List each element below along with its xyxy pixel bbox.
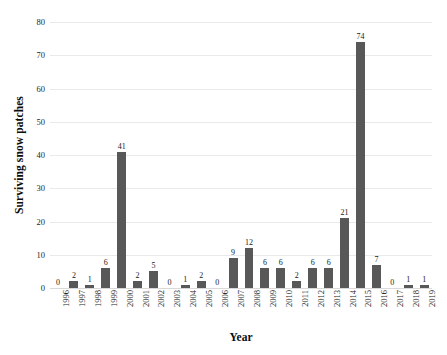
bar-value-label: 1 — [88, 275, 92, 284]
bar-value-label: 2 — [72, 271, 76, 280]
y-axis-tick-label: 0 — [41, 283, 45, 293]
bar-slot[interactable]: 1 — [82, 22, 98, 288]
bar[interactable] — [229, 258, 238, 288]
bar-slot[interactable]: 1 — [416, 22, 432, 288]
y-axis-tick-label: 50 — [37, 117, 46, 127]
bar-slot[interactable]: 1 — [177, 22, 193, 288]
y-axis-tick-label: 10 — [37, 250, 46, 260]
bar-value-label: 74 — [356, 32, 364, 41]
bar-slot[interactable]: 6 — [98, 22, 114, 288]
bar[interactable] — [133, 281, 142, 288]
bar-value-label: 6 — [263, 258, 267, 267]
x-tick-slot: 2015 — [353, 290, 369, 328]
x-tick-slot: 2002 — [146, 290, 162, 328]
bar-slot[interactable]: 2 — [130, 22, 146, 288]
bar-value-label: 6 — [311, 258, 315, 267]
bar-slot[interactable]: 0 — [50, 22, 66, 288]
x-tick-slot: 1997 — [66, 290, 82, 328]
bar[interactable] — [356, 42, 365, 288]
bar[interactable] — [69, 281, 78, 288]
x-tick-slot: 2006 — [209, 290, 225, 328]
bar-slot[interactable]: 2 — [66, 22, 82, 288]
bar[interactable] — [308, 268, 317, 288]
bar[interactable] — [324, 268, 333, 288]
x-tick-slot: 2011 — [289, 290, 305, 328]
x-tick-slot: 2013 — [321, 290, 337, 328]
y-axis-tick-label: 70 — [37, 50, 46, 60]
bar[interactable] — [197, 281, 206, 288]
bar[interactable] — [149, 271, 158, 288]
x-axis-tick-labels: 1996199719981999200020012002200320042005… — [50, 290, 432, 328]
bar-slot[interactable]: 6 — [305, 22, 321, 288]
x-tick-slot: 2004 — [177, 290, 193, 328]
bar-value-label: 12 — [245, 238, 253, 247]
bar-slot[interactable]: 9 — [225, 22, 241, 288]
bar-slot[interactable]: 0 — [161, 22, 177, 288]
x-tick-slot: 2010 — [273, 290, 289, 328]
bar-value-label: 0 — [167, 278, 171, 287]
bar-slot[interactable]: 2 — [289, 22, 305, 288]
x-tick-slot: 1996 — [50, 290, 66, 328]
bar[interactable] — [404, 285, 413, 288]
bar-slot[interactable]: 5 — [146, 22, 162, 288]
gridline: 0 — [50, 288, 432, 289]
x-tick-slot: 1999 — [98, 290, 114, 328]
x-tick-slot: 2014 — [337, 290, 353, 328]
x-tick-slot: 2019 — [416, 290, 432, 328]
bar[interactable] — [292, 281, 301, 288]
bar-value-label: 6 — [104, 258, 108, 267]
bar[interactable] — [181, 285, 190, 288]
bar-value-label: 1 — [183, 275, 187, 284]
plot-area: 80706050403020100 0216412501209126626621… — [50, 22, 432, 288]
bar-value-label: 41 — [118, 142, 126, 151]
x-tick-slot: 2000 — [114, 290, 130, 328]
bar-value-label: 7 — [374, 255, 378, 264]
bar-slot[interactable]: 21 — [337, 22, 353, 288]
x-tick-slot: 2018 — [400, 290, 416, 328]
y-axis-tick-label: 40 — [37, 150, 46, 160]
bar-slot[interactable]: 1 — [400, 22, 416, 288]
bar-slot[interactable]: 6 — [257, 22, 273, 288]
bar[interactable] — [420, 285, 429, 288]
x-axis-tick-label: 2019 — [428, 290, 437, 307]
bar-slot[interactable]: 74 — [353, 22, 369, 288]
x-tick-slot: 1998 — [82, 290, 98, 328]
x-tick-slot: 2003 — [161, 290, 177, 328]
bar-value-label: 0 — [390, 278, 394, 287]
bar-slot[interactable]: 12 — [241, 22, 257, 288]
bar-slot[interactable]: 41 — [114, 22, 130, 288]
bar-value-label: 6 — [327, 258, 331, 267]
bar-slot[interactable]: 6 — [321, 22, 337, 288]
y-axis-tick-label: 30 — [37, 183, 46, 193]
bar[interactable] — [85, 285, 94, 288]
bar-slot[interactable]: 6 — [273, 22, 289, 288]
bar[interactable] — [260, 268, 269, 288]
y-axis-tick-label: 20 — [37, 217, 46, 227]
bar[interactable] — [340, 218, 349, 288]
bar[interactable] — [276, 268, 285, 288]
bar-value-label: 9 — [231, 248, 235, 257]
bar-value-label: 2 — [136, 271, 140, 280]
bar[interactable] — [101, 268, 110, 288]
x-tick-slot: 2008 — [241, 290, 257, 328]
x-tick-slot: 2012 — [305, 290, 321, 328]
bar[interactable] — [372, 265, 381, 288]
y-axis-tick-label: 60 — [37, 84, 46, 94]
bar-value-label: 2 — [199, 271, 203, 280]
x-tick-slot: 2001 — [130, 290, 146, 328]
bar-chart: Surviving snow patches 80706050403020100… — [0, 0, 447, 355]
bar[interactable] — [117, 152, 126, 288]
x-axis-title: Year — [50, 331, 432, 343]
bar-slot[interactable]: 2 — [193, 22, 209, 288]
bar-value-label: 1 — [422, 275, 426, 284]
x-tick-slot: 2007 — [225, 290, 241, 328]
bar-slot[interactable]: 0 — [384, 22, 400, 288]
bar-slot[interactable]: 7 — [368, 22, 384, 288]
bar-value-label: 2 — [295, 271, 299, 280]
bar-slot[interactable]: 0 — [209, 22, 225, 288]
bar[interactable] — [245, 248, 254, 288]
bar-value-label: 6 — [279, 258, 283, 267]
bar-value-label: 0 — [56, 278, 60, 287]
y-axis-title: Surviving snow patches — [10, 22, 28, 288]
bar-value-label: 5 — [151, 261, 155, 270]
